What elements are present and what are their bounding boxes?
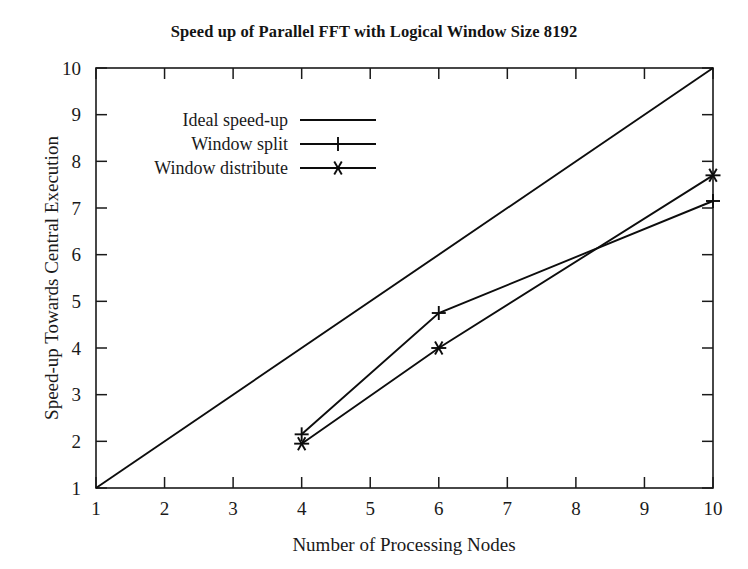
chart-plot-area: 12345678910 12345678910 Speed-up Towards…: [0, 0, 748, 569]
chart-legend: Ideal speed-upWindow splitWindow distrib…: [154, 110, 376, 178]
x-tick-label: 5: [365, 498, 375, 519]
x-tick-label: 3: [228, 498, 238, 519]
legend-label-0: Ideal speed-up: [183, 110, 288, 130]
legend-label-2: Window distribute: [154, 158, 288, 178]
x-tick-label: 4: [297, 498, 307, 519]
y-axis-ticks: 12345678910: [62, 58, 713, 499]
data-series-group: [96, 68, 721, 488]
x-tick-label: 2: [160, 498, 170, 519]
series-0: [96, 68, 713, 488]
y-tick-label: 4: [72, 338, 82, 359]
chart-page: Speed up of Parallel FFT with Logical Wi…: [0, 0, 748, 569]
x-tick-label: 9: [640, 498, 650, 519]
y-tick-label: 7: [72, 198, 82, 219]
x-tick-label: 6: [434, 498, 444, 519]
x-axis-ticks: 12345678910: [91, 68, 722, 519]
y-tick-label: 5: [72, 291, 82, 312]
x-tick-label: 8: [571, 498, 581, 519]
y-axis-title: Speed-up Towards Central Execution: [41, 136, 62, 420]
x-tick-label: 7: [503, 498, 513, 519]
x-tick-label: 1: [91, 498, 101, 519]
y-tick-label: 10: [62, 58, 81, 79]
y-tick-label: 9: [72, 104, 82, 125]
y-tick-label: 6: [72, 244, 82, 265]
x-axis-title: Number of Processing Nodes: [292, 534, 515, 555]
x-tick-label: 10: [704, 498, 723, 519]
y-tick-label: 8: [72, 151, 82, 172]
legend-label-1: Window split: [191, 134, 288, 154]
y-tick-label: 3: [72, 384, 82, 405]
y-tick-label: 2: [72, 431, 82, 452]
y-tick-label: 1: [72, 478, 82, 499]
